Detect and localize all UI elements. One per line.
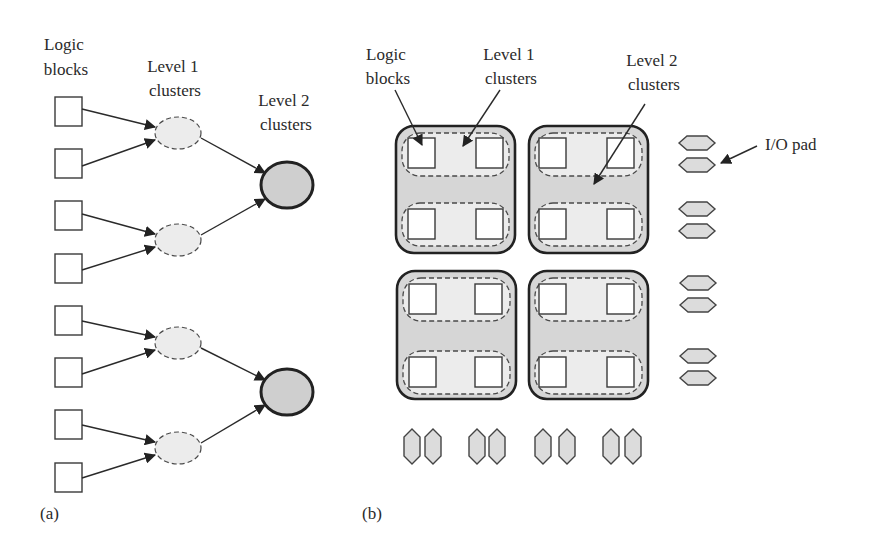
io-pad xyxy=(425,429,441,464)
logic-block xyxy=(55,149,82,178)
io-pad xyxy=(680,298,716,312)
panel-b: Logic blocks Level 1 clusters Level 2 cl… xyxy=(362,45,817,523)
io-pad xyxy=(679,158,715,172)
io-pad xyxy=(680,276,716,290)
logic-block xyxy=(607,284,634,314)
logic-blocks-column xyxy=(55,97,82,492)
panel-a: Logic blocks Level 1 clusters Level 2 cl… xyxy=(40,35,314,523)
logic-block xyxy=(476,209,503,239)
level2-tile xyxy=(396,126,515,253)
logic-block xyxy=(539,284,566,314)
logic-block xyxy=(607,209,634,239)
io-pad xyxy=(679,136,715,150)
label-level2-b: Level 2 clusters xyxy=(626,51,682,94)
io-pad xyxy=(680,371,716,385)
logic-block xyxy=(475,284,502,314)
logic-block xyxy=(408,209,435,239)
io-pad xyxy=(469,429,485,464)
logic-block xyxy=(55,201,82,230)
label-logic-blocks-a: Logic blocks xyxy=(44,35,88,79)
io-pad xyxy=(489,429,505,464)
logic-block xyxy=(539,209,566,239)
fpga-hierarchy-diagram: Logic blocks Level 1 clusters Level 2 cl… xyxy=(0,0,871,544)
io-pad xyxy=(625,429,641,464)
edges-block-to-level1 xyxy=(82,109,155,478)
level1-cluster xyxy=(155,117,201,149)
logic-block xyxy=(55,306,82,335)
arrow-to-io-pad xyxy=(721,146,757,163)
io-pads-right xyxy=(679,136,716,385)
logic-block xyxy=(475,357,502,387)
io-pad xyxy=(535,429,551,464)
io-pad xyxy=(603,429,619,464)
label-level1-b: Level 1 clusters xyxy=(483,45,539,88)
level2-cluster xyxy=(261,369,313,415)
edges-level1-to-level2 xyxy=(201,138,265,443)
io-pad xyxy=(679,202,715,216)
logic-block xyxy=(476,138,503,168)
logic-block xyxy=(539,138,566,168)
logic-block xyxy=(55,97,82,126)
logic-block xyxy=(55,410,82,439)
label-level2-a: Level 2 clusters xyxy=(258,91,314,134)
logic-block xyxy=(55,254,82,283)
label-io-pad: I/O pad xyxy=(765,135,817,154)
io-pad xyxy=(680,349,716,363)
level1-cluster xyxy=(155,224,201,256)
level1-cluster xyxy=(155,432,201,464)
logic-block xyxy=(409,284,436,314)
label-level1-a: Level 1 clusters xyxy=(147,57,203,100)
level2-tile xyxy=(529,271,648,399)
logic-block xyxy=(55,463,82,492)
caption-a: (a) xyxy=(40,504,59,523)
label-logic-blocks-b: Logic blocks xyxy=(366,45,410,88)
io-pad xyxy=(559,429,575,464)
io-pad xyxy=(404,429,420,464)
level2-tile xyxy=(529,126,648,253)
logic-block xyxy=(409,357,436,387)
logic-block xyxy=(55,358,82,387)
io-pads-bottom xyxy=(404,429,641,464)
level1-clusters-column xyxy=(155,117,201,464)
logic-block xyxy=(607,357,634,387)
io-pad xyxy=(679,224,715,238)
caption-b: (b) xyxy=(362,504,382,523)
logic-block xyxy=(539,357,566,387)
level1-cluster xyxy=(155,327,201,359)
level2-tile xyxy=(397,271,516,399)
level2-cluster xyxy=(261,162,313,208)
